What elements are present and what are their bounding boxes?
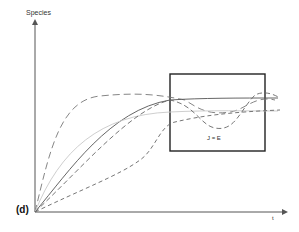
box-label: J = E [207, 135, 221, 141]
species-time-diagram [0, 0, 299, 232]
y-axis-label: Species [26, 9, 51, 16]
x-axis-label: t [272, 215, 274, 221]
curve-light [35, 111, 278, 212]
panel-label: (d) [16, 204, 29, 215]
curve-solid [35, 98, 278, 212]
curve-dash-slow [35, 110, 280, 212]
